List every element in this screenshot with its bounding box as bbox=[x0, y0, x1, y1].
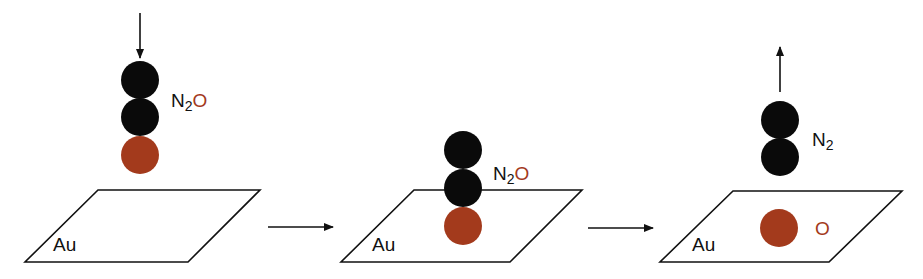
adsorbate-label: O bbox=[815, 218, 830, 239]
oxygen-atom bbox=[760, 209, 798, 247]
n2o-decomposition-diagram: N2O Au N2O Au N2 O Au bbox=[0, 0, 923, 279]
molecule-label: N2 bbox=[812, 129, 834, 153]
surface-label: Au bbox=[692, 234, 715, 255]
nitrogen-atom bbox=[444, 131, 482, 169]
nitrogen-atom bbox=[761, 138, 799, 176]
molecule-label: N2O bbox=[493, 163, 529, 187]
panel-3-desorption: N2 O Au bbox=[660, 47, 902, 262]
molecule-label: N2O bbox=[171, 90, 207, 114]
oxygen-atom bbox=[444, 207, 482, 245]
nitrogen-atom bbox=[761, 101, 799, 139]
surface-label: Au bbox=[372, 234, 395, 255]
nitrogen-atom bbox=[121, 98, 159, 136]
surface-label: Au bbox=[53, 234, 76, 255]
panel-2-adsorbed: N2O Au bbox=[341, 131, 582, 262]
nitrogen-atom bbox=[121, 61, 159, 99]
panel-1-approach: N2O Au bbox=[25, 13, 260, 262]
oxygen-atom bbox=[121, 136, 159, 174]
nitrogen-atom bbox=[444, 169, 482, 207]
